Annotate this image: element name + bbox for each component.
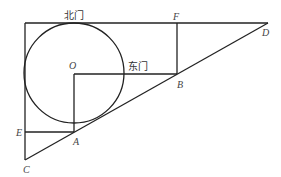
north-gate-label: 北门 (64, 9, 84, 21)
point-label-a: A (72, 136, 80, 147)
geometry-diagram: 北门 东门 O F D B E A C (0, 0, 281, 177)
point-label-d: D (261, 27, 270, 38)
point-label-b: B (177, 79, 183, 90)
point-label-f: F (172, 11, 180, 22)
point-label-o: O (69, 60, 76, 71)
point-label-c: C (23, 164, 30, 175)
east-gate-label: 东门 (128, 60, 148, 72)
line-cd (25, 23, 268, 160)
point-label-e: E (15, 127, 22, 138)
